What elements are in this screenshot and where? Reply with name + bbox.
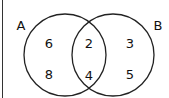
set-a-label: A — [17, 19, 26, 32]
region-b-only-value-1: 3 — [126, 37, 134, 50]
region-intersection-value-1: 2 — [85, 37, 93, 50]
region-intersection-value-2: 4 — [85, 69, 93, 82]
region-a-only-value-1: 6 — [45, 37, 53, 50]
region-b-only-value-2: 5 — [126, 68, 134, 81]
set-b-circle — [72, 14, 154, 96]
set-a-circle — [24, 14, 106, 96]
region-a-only-value-2: 8 — [45, 68, 53, 81]
set-b-label: B — [154, 19, 163, 32]
